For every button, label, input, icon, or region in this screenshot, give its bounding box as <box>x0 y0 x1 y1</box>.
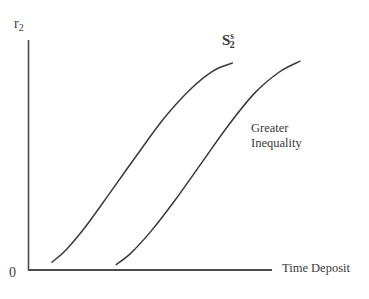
y-axis-label-base: r <box>14 16 19 31</box>
supply-curve-label: Ss2 <box>222 32 235 51</box>
supply-curve-greater-inequality <box>116 61 300 264</box>
chart-canvas <box>0 0 369 299</box>
savings-supply-curve-figure: r2 Time Deposit 0 Ss2 GreaterInequality <box>0 0 369 299</box>
origin-label: 0 <box>9 266 16 280</box>
annotation-line-1: Greater <box>251 121 302 136</box>
supply-curve-base <box>52 63 232 262</box>
curve-label-subscript: 2 <box>229 39 234 50</box>
greater-inequality-annotation: GreaterInequality <box>251 121 302 150</box>
annotation-line-2: Inequality <box>251 136 302 151</box>
x-axis-label: Time Deposit <box>282 262 350 275</box>
y-axis-label-subscript: 2 <box>19 22 24 33</box>
y-axis-label: r2 <box>14 17 24 33</box>
